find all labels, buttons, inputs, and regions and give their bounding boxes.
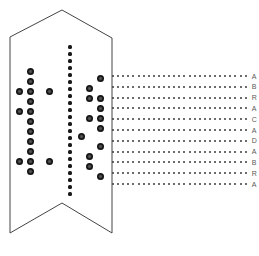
banner-outline-svg (0, 0, 259, 256)
banner-outline (10, 10, 112, 233)
figure-caption (0, 247, 259, 256)
figure-root: ABRACADABRA (0, 0, 259, 256)
